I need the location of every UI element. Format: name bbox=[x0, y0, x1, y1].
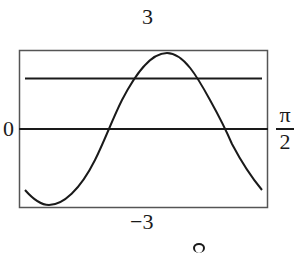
plot-area bbox=[0, 0, 300, 249]
